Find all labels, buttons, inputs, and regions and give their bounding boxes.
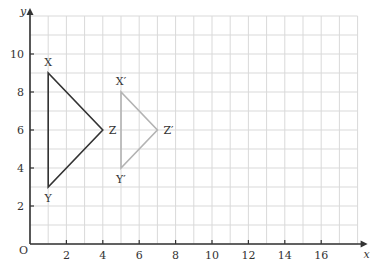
vertex-label: X′ bbox=[116, 75, 127, 88]
y-tick-label: 10 bbox=[10, 48, 24, 61]
y-tick-label: 8 bbox=[17, 86, 24, 99]
vertex-label: Z′ bbox=[163, 124, 174, 137]
y-axis-arrow-icon bbox=[27, 8, 34, 15]
tick-labels: xyO246810121416246810 bbox=[10, 5, 370, 262]
x-tick-label: 16 bbox=[314, 249, 328, 262]
vertex-label: Y bbox=[44, 192, 53, 205]
origin-label: O bbox=[19, 244, 28, 257]
vertex-label: X bbox=[44, 56, 52, 69]
x-tick-label: 8 bbox=[172, 249, 179, 262]
x-tick-label: 12 bbox=[241, 249, 255, 262]
x-tick-label: 2 bbox=[63, 249, 70, 262]
x-tick-label: 6 bbox=[136, 249, 143, 262]
y-tick-label: 2 bbox=[17, 200, 24, 213]
y-axis-label: y bbox=[19, 5, 27, 18]
axes bbox=[27, 8, 368, 248]
y-tick-label: 4 bbox=[17, 162, 24, 175]
grid-lines bbox=[30, 16, 358, 244]
vertex-label: Z bbox=[109, 124, 117, 137]
x-axis-label: x bbox=[364, 248, 370, 261]
vertex-label: Y′ bbox=[115, 173, 126, 186]
x-tick-label: 4 bbox=[99, 249, 106, 262]
x-axis-arrow-icon bbox=[361, 241, 368, 248]
y-tick-label: 6 bbox=[17, 124, 24, 137]
x-tick-label: 10 bbox=[205, 249, 219, 262]
x-tick-label: 14 bbox=[278, 249, 292, 262]
coordinate-grid-diagram: xyO246810121416246810 XYZ X′Y′Z′ bbox=[0, 0, 370, 270]
